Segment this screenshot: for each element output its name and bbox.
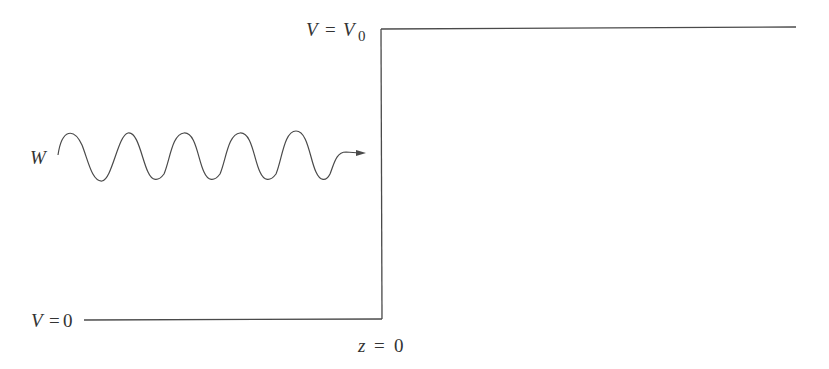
svg-text:0: 0 [394,335,404,356]
svg-text:=: = [49,310,60,331]
position-label: z = 0 [357,335,404,356]
svg-text:0: 0 [63,310,73,331]
svg-text:0: 0 [358,28,366,44]
svg-text:V: V [306,19,320,40]
bottom-potential-label: V = 0 [31,310,73,331]
wave-arrow-icon [356,150,366,156]
svg-text:=: = [325,19,336,40]
potential-step-diagram: W V = V 0 V = 0 z = 0 [0,0,829,369]
top-potential-label: V = V 0 [306,19,366,44]
top-potential-line [381,27,796,29]
svg-text:V: V [31,310,45,331]
wave-label: W [30,147,48,168]
step-wall-line [381,29,382,319]
svg-text:V: V [343,19,357,40]
incident-wave [58,131,360,181]
svg-text:=: = [374,335,385,356]
svg-text:z: z [357,335,366,356]
bottom-potential-line [84,319,382,320]
